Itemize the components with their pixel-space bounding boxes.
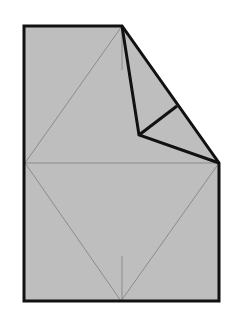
paper-shape xyxy=(24,26,219,301)
origami-diagram xyxy=(0,0,240,324)
